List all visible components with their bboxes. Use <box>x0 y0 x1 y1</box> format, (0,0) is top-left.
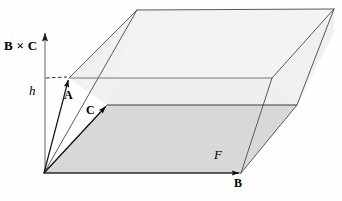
label-vector-a: A <box>64 89 73 101</box>
label-vector-c: C <box>86 104 95 116</box>
label-vector-b: B <box>234 177 242 189</box>
label-height-h: h <box>29 84 36 97</box>
figure-canvas <box>0 0 342 201</box>
parallelepiped-figure: B × C h A C F B <box>0 0 342 201</box>
height-dashed-line <box>46 77 67 78</box>
label-cross-product: B × C <box>4 39 37 52</box>
label-area-f: F <box>214 148 222 161</box>
